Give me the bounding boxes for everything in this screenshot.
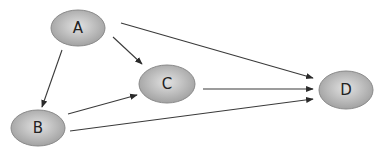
node-label: D	[340, 81, 352, 99]
graph-diagram: ABCD	[0, 0, 384, 154]
node-b: B	[11, 110, 65, 146]
edge-b-to-c	[68, 95, 137, 114]
node-label: B	[33, 119, 43, 137]
node-a: A	[51, 10, 105, 46]
node-label: C	[162, 75, 172, 93]
node-d: D	[319, 71, 373, 109]
edge-a-to-b	[42, 50, 62, 107]
nodes: ABCD	[11, 10, 373, 146]
node-c: C	[139, 65, 195, 103]
edge-a-to-c	[113, 37, 142, 64]
node-label: A	[73, 19, 84, 37]
